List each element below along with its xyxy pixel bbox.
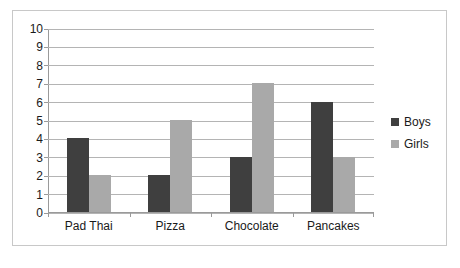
bar-boys-pad-thai: [67, 138, 89, 212]
y-axis-tick-mark: [44, 121, 48, 122]
y-axis-tick-mark: [44, 194, 48, 195]
y-axis-tick-label: 1: [36, 189, 43, 201]
legend-label: Boys: [404, 116, 431, 128]
x-axis-label-pizza: Pizza: [156, 219, 185, 233]
y-axis-tick-label: 9: [36, 41, 43, 53]
bar-girls-pizza: [170, 120, 192, 212]
gridline: [48, 29, 374, 30]
y-axis-tick-mark: [44, 102, 48, 103]
y-axis-tick-mark: [44, 29, 48, 30]
chart-legend: BoysGirls: [391, 111, 447, 155]
y-axis-tick-label: 2: [36, 170, 43, 182]
y-axis-tick-label: 10: [30, 23, 43, 35]
y-axis-tick-label: 7: [36, 78, 43, 90]
gridline: [48, 65, 374, 66]
legend-swatch-icon: [391, 140, 399, 148]
x-axis-label-pancakes: Pancakes: [307, 219, 360, 233]
y-axis-tick-mark: [44, 176, 48, 177]
legend-label: Girls: [404, 138, 429, 150]
chart-frame: 012345678910 Pad ThaiPizzaChocolatePanca…: [12, 10, 447, 246]
y-axis-tick-mark: [44, 157, 48, 158]
x-axis-tick-mark: [48, 213, 49, 217]
legend-swatch-icon: [391, 118, 399, 126]
y-axis-tick-label: 3: [36, 152, 43, 164]
bar-boys-chocolate: [230, 157, 252, 212]
gridline: [48, 47, 374, 48]
y-axis-tick-mark: [44, 65, 48, 66]
y-axis-tick-label: 4: [36, 133, 43, 145]
bar-boys-pizza: [148, 175, 170, 212]
gridline: [48, 84, 374, 85]
y-axis-tick-mark: [44, 139, 48, 140]
y-axis-tick-mark: [44, 84, 48, 85]
bar-boys-pancakes: [311, 102, 333, 212]
x-axis-label-chocolate: Chocolate: [225, 219, 279, 233]
y-axis-tick-label: 5: [36, 115, 43, 127]
bar-girls-pancakes: [333, 157, 355, 212]
x-axis-label-pad-thai: Pad Thai: [65, 219, 113, 233]
x-axis-tick-mark: [373, 213, 374, 217]
y-axis-tick-labels: 012345678910: [13, 29, 43, 213]
plot-area: [48, 29, 374, 213]
x-axis-tick-mark: [211, 213, 212, 217]
x-axis-tick-mark: [293, 213, 294, 217]
x-axis-tick-mark: [130, 213, 131, 217]
y-axis-tick-label: 6: [36, 97, 43, 109]
legend-item-girls[interactable]: Girls: [391, 133, 447, 155]
y-axis-tick-mark: [44, 47, 48, 48]
bar-girls-chocolate: [252, 83, 274, 212]
y-axis-tick-label: 8: [36, 60, 43, 72]
y-axis-tick-label: 0: [36, 207, 43, 219]
legend-item-boys[interactable]: Boys: [391, 111, 447, 133]
bar-girls-pad-thai: [89, 175, 111, 212]
